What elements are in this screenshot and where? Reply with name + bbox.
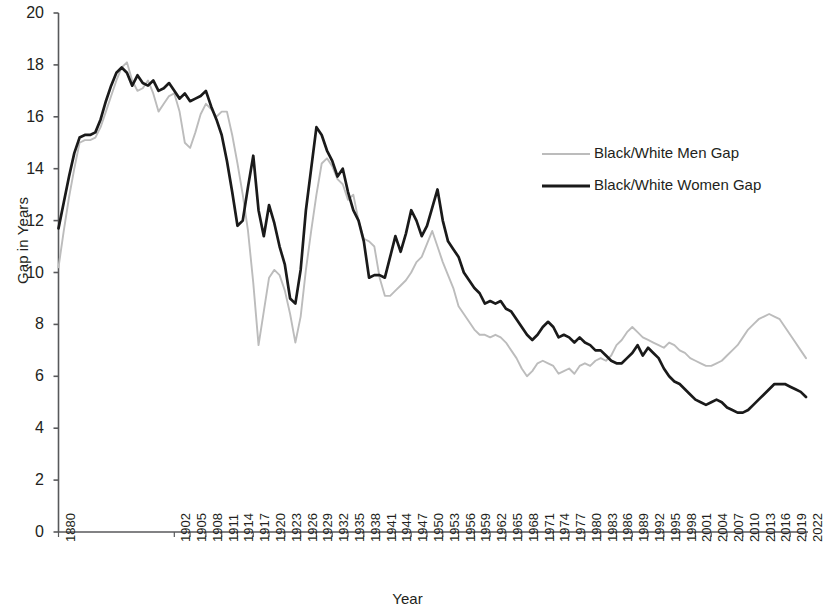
x-tick-label: 1968 — [527, 513, 540, 542]
x-axis-title: Year — [0, 590, 815, 607]
x-tick-label: 1935 — [353, 513, 366, 542]
y-tick-label: 20 — [0, 5, 44, 21]
x-tick-label: 1950 — [432, 513, 445, 542]
x-tick-label: 1923 — [290, 513, 303, 542]
x-tick-label: 1917 — [258, 513, 271, 542]
x-tick-label: 1944 — [400, 513, 413, 542]
y-tick-label: 14 — [0, 161, 44, 177]
x-tick-label: 1902 — [179, 513, 192, 542]
x-tick-label: 1974 — [558, 513, 571, 542]
x-tick-label: 2016 — [779, 513, 792, 542]
x-tick-label: 1983 — [606, 513, 619, 542]
y-tick-label: 10 — [0, 265, 44, 281]
x-tick-label: 1989 — [637, 513, 650, 542]
x-tick-label: 2007 — [732, 513, 745, 542]
y-tick-label: 4 — [0, 420, 44, 436]
x-tick-label: 2022 — [811, 513, 824, 542]
axis-lines — [59, 13, 809, 532]
x-tick-label: 1920 — [274, 513, 287, 542]
x-tick-label: 1962 — [495, 513, 508, 542]
y-tick-label: 16 — [0, 109, 44, 125]
y-tick-label: 0 — [0, 524, 44, 540]
x-tick-label: 1908 — [211, 513, 224, 542]
x-tick-label: 1929 — [321, 513, 334, 542]
x-tick-label: 1986 — [621, 513, 634, 542]
legend-label-women: Black/White Women Gap — [594, 176, 761, 193]
x-tick-label: 2010 — [748, 513, 761, 542]
legend-swatches — [542, 154, 590, 186]
x-tick-label: 1938 — [369, 513, 382, 542]
x-tick-label: 1953 — [448, 513, 461, 542]
x-tick-label: 2001 — [700, 513, 713, 542]
x-tick-label: 1941 — [385, 513, 398, 542]
x-tick-label: 2004 — [716, 513, 729, 542]
x-tick-label: 1956 — [464, 513, 477, 542]
x-tick-label: 1998 — [685, 513, 698, 542]
data-series-group — [59, 62, 807, 412]
series-line-men — [59, 62, 807, 376]
y-tick-label: 2 — [0, 472, 44, 488]
x-tick-label: 1965 — [511, 513, 524, 542]
y-axis-title: Gap in Years — [14, 161, 31, 321]
y-tick-label: 8 — [0, 316, 44, 332]
x-tick-label: 1947 — [416, 513, 429, 542]
legend-label-men: Black/White Men Gap — [594, 144, 739, 161]
x-tick-label: 1914 — [242, 513, 255, 542]
x-tick-label: 1977 — [574, 513, 587, 542]
x-tick-label: 1932 — [337, 513, 350, 542]
x-tick-label: 1911 — [227, 514, 240, 542]
x-tick-label: 1971 — [543, 513, 556, 542]
x-tick-label: 2019 — [795, 513, 808, 542]
x-tick-label: 1880 — [64, 513, 77, 542]
x-tick-label: 1992 — [653, 513, 666, 542]
y-tick-label: 18 — [0, 57, 44, 73]
x-tick-label: 1905 — [195, 513, 208, 542]
x-tick-label: 2013 — [764, 513, 777, 542]
y-tick-label: 6 — [0, 368, 44, 384]
tick-marks — [54, 13, 807, 537]
x-tick-label: 1959 — [479, 513, 492, 542]
y-tick-label: 12 — [0, 213, 44, 229]
x-tick-label: 1926 — [306, 513, 319, 542]
x-tick-label: 1980 — [590, 513, 603, 542]
x-tick-label: 1995 — [669, 513, 682, 542]
